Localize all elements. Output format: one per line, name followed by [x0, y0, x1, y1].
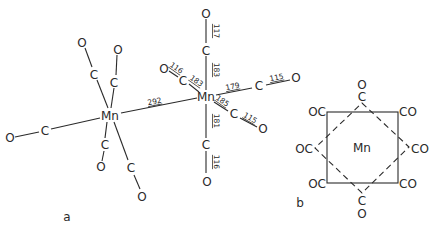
atom-o-bottom: O — [202, 175, 211, 189]
corner-bottom-left: OC — [308, 177, 326, 191]
mn2co10-structure-figure: O C O C O C C O C O Mn 292 O C O C C — [0, 0, 430, 228]
atom-o-upper-right: O — [113, 43, 122, 57]
bond-ur-c-o — [116, 55, 117, 75]
label-bottom-mn-c: 181 — [212, 114, 221, 129]
panel-label-b: b — [296, 196, 304, 210]
center-mn: Mn — [353, 141, 371, 155]
corner-top-left: OC — [308, 105, 326, 119]
atom-c-upper-left: C — [90, 68, 98, 82]
atom-c-lower: C — [101, 138, 109, 152]
corner-top-right: CO — [399, 105, 417, 119]
atom-c-bottom: C — [202, 138, 210, 152]
atom-o-left: O — [5, 131, 14, 145]
bond-left-c-o — [15, 132, 39, 137]
bond-lower-mn-c — [105, 122, 107, 138]
bond-left-mn-c — [51, 118, 100, 129]
label-top-c-o: 117 — [212, 24, 221, 39]
label-bottom-c-o: 116 — [212, 155, 221, 170]
panel-label-a: a — [63, 210, 70, 224]
atom-c-upper-right: C — [110, 76, 118, 90]
atom-o-top: O — [201, 7, 210, 21]
atom-c-lower-right-2: C — [230, 107, 238, 121]
label-lr-mn-c: 185 — [214, 93, 231, 109]
corner-bottom-right: CO — [399, 177, 417, 191]
label-ul-mn-c: 183 — [188, 73, 205, 89]
top-c: C — [358, 90, 366, 104]
corner-mid-right: CO — [411, 142, 429, 156]
label-top-mn-c: 183 — [212, 63, 221, 78]
bottom-c: C — [358, 194, 366, 208]
atom-c-upper-left-2: C — [179, 74, 187, 88]
atom-o-lower-right-2: O — [258, 122, 267, 136]
atom-o-lower: O — [96, 160, 105, 174]
bond-ul-mn-c — [97, 80, 108, 108]
bond-lr-mn-c — [114, 122, 128, 160]
atom-c-right: C — [255, 79, 263, 93]
bond-ul-c-o — [85, 48, 92, 67]
atom-o-upper-left: O — [77, 36, 86, 50]
bond-ur-mn-c — [111, 88, 114, 108]
bond-lr-c-o — [134, 175, 140, 189]
atom-c-top: C — [202, 44, 210, 58]
atom-o-right: O — [291, 71, 300, 85]
bottom-o: O — [357, 207, 366, 221]
corner-mid-left: OC — [295, 142, 313, 156]
atom-mn-right: Mn — [197, 90, 215, 104]
atom-c-lower-right: C — [127, 161, 135, 175]
atom-o-upper-left-2: O — [159, 62, 168, 76]
antiprism-projection: Mn O C C O OC CO OC CO OC CO — [295, 78, 429, 221]
atom-c-left: C — [41, 124, 49, 138]
atom-mn-left: Mn — [101, 109, 119, 123]
right-mn-fragment: O C O C C O C O C O Mn 183 117 183 116 1… — [159, 7, 300, 189]
atom-o-lower-right: O — [137, 190, 146, 204]
